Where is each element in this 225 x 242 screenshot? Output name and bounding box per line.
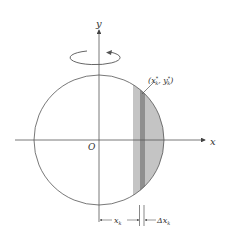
xk-dimension-label: xk bbox=[114, 216, 122, 226]
rotation-arrow-icon bbox=[70, 50, 120, 65]
delta-xk-dimension-label: Δxk bbox=[156, 216, 170, 226]
solid-of-revolution-diagram: y x O (x*k, y*k) xk Δxk bbox=[0, 0, 225, 242]
x-axis-label: x bbox=[210, 136, 216, 147]
origin-label: O bbox=[88, 142, 96, 152]
y-axis-label: y bbox=[95, 18, 102, 29]
point-label: (x*k, y*k) bbox=[148, 75, 173, 86]
